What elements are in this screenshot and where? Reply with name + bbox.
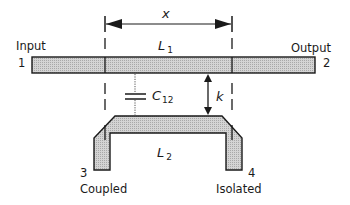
port-isolated-label: Isolated — [216, 182, 262, 196]
line1-label: L1 — [158, 38, 173, 55]
port-coupled-label: Coupled — [80, 182, 127, 196]
port-output-number: 2 — [323, 56, 330, 70]
arrow-down-icon — [204, 107, 212, 115]
port-input-number: 1 — [18, 56, 25, 70]
arrow-right-icon — [215, 19, 231, 29]
coupler-diagram: x L1 L2 C12 k Input 1 Output 2 3 Coupled… — [0, 0, 350, 205]
transmission-line-l1 — [32, 57, 315, 73]
line2-label: L2 — [157, 145, 172, 162]
port-isolated-number: 4 — [248, 166, 255, 180]
port-output-label: Output — [291, 41, 331, 55]
port-coupled-number: 3 — [80, 166, 87, 180]
arrow-up-icon — [204, 74, 212, 82]
capacitance-label: C12 — [152, 88, 174, 105]
arrow-left-icon — [106, 19, 122, 29]
length-label: x — [161, 6, 170, 21]
coupling-arrow — [204, 74, 212, 115]
coupling-label: k — [216, 89, 224, 104]
capacitor-c12 — [125, 74, 146, 116]
port-input-label: Input — [16, 39, 46, 53]
